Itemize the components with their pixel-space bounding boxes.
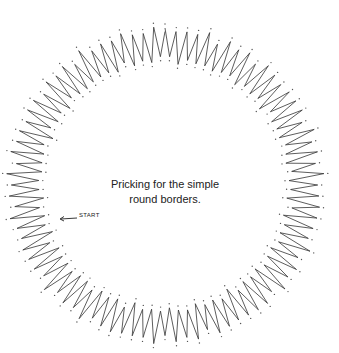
caption: Pricking for the simple round borders.: [90, 177, 240, 207]
start-label: START: [79, 212, 100, 218]
arrow-left-icon: [58, 215, 78, 223]
caption-line-1: Pricking for the simple: [90, 177, 240, 192]
caption-line-2: round borders.: [90, 192, 240, 207]
